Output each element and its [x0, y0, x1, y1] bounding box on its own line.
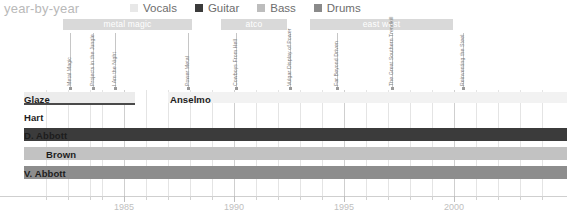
legend-label: Vocals [143, 2, 177, 14]
gridline-minor [322, 90, 323, 196]
album-marker[interactable]: Power Metal [188, 33, 189, 90]
row-label-d-abbott: D. Abbott [24, 131, 67, 141]
album-label: Metal Magic [66, 57, 72, 86]
timeline-bar[interactable] [24, 128, 567, 141]
album-marker[interactable]: I Am the Night [115, 33, 116, 90]
axis-year-label: 1995 [334, 202, 354, 212]
year-axis: 1985199019952000 [0, 196, 567, 220]
gridline-minor [146, 90, 147, 196]
album-marker[interactable]: Projects in the Jungle [93, 33, 94, 90]
gridline-minor [168, 90, 169, 196]
axis-tick-minor [410, 196, 411, 200]
legend-item-guitar[interactable]: Guitar [195, 2, 239, 14]
row-label-brown: Brown [46, 150, 76, 160]
axis-tick-minor [388, 196, 389, 200]
legend-item-bass[interactable]: Bass [257, 2, 296, 14]
chart-header: year-by-year VocalsGuitarBassDrums [0, 0, 567, 18]
album-marker[interactable]: Reinventing the Steel [463, 33, 464, 90]
axis-tick-minor [90, 196, 91, 200]
gridline-minor [300, 90, 301, 196]
gridline-major [124, 90, 125, 196]
row-label-hart: Hart [24, 113, 43, 123]
album-marker[interactable]: The Great Southern Trendkill [392, 33, 393, 90]
legend-swatch-icon [130, 4, 138, 12]
axis-line [0, 196, 567, 197]
axis-tick-minor [168, 196, 169, 200]
legend: VocalsGuitarBassDrums [130, 2, 379, 15]
album-marker[interactable]: Cowboys From Hell [236, 33, 237, 90]
gridline-minor [432, 90, 433, 196]
gridline-major [344, 90, 345, 196]
timeline-bar[interactable] [24, 147, 567, 160]
album-label: Power Metal [184, 56, 190, 86]
axis-tick-minor [256, 196, 257, 200]
axis-tick-minor [68, 196, 69, 200]
legend-label: Guitar [208, 2, 239, 14]
legend-swatch-icon [195, 4, 203, 12]
gridline-minor [46, 90, 47, 196]
era-band: east west [310, 19, 453, 30]
album-label: The Great Southern Trendkill [388, 17, 394, 86]
axis-year-label: 1985 [114, 202, 134, 212]
gridline-minor [498, 90, 499, 196]
era-band: metal magic [63, 19, 192, 30]
gridline-minor [190, 90, 191, 196]
legend-item-drums[interactable]: Drums [314, 2, 361, 14]
axis-tick-minor [432, 196, 433, 200]
gridline-minor [366, 90, 367, 196]
page-title: year-by-year [4, 1, 79, 16]
gridline-major [454, 90, 455, 196]
gridline-minor [520, 90, 521, 196]
gridline-minor [102, 90, 103, 196]
legend-item-vocals[interactable]: Vocals [130, 2, 177, 14]
row-label-glaze: Glaze [24, 95, 50, 105]
album-marker[interactable]: Far Beyond Driven [337, 33, 338, 90]
axis-tick-minor [366, 196, 367, 200]
axis-tick-minor [46, 196, 47, 200]
axis-tick-minor [212, 196, 213, 200]
gridline-minor [278, 90, 279, 196]
album-label: Projects in the Jungle [89, 34, 95, 86]
axis-tick-minor [498, 196, 499, 200]
gridline-minor [90, 90, 91, 196]
album-marker[interactable]: Metal Magic [70, 33, 71, 90]
album-label: Cowboys From Hell [232, 39, 238, 86]
timeline-plot: GlazeAnselmoHartD. AbbottBrownV. Abbott [0, 90, 567, 196]
axis-tick-minor [476, 196, 477, 200]
album-marker[interactable]: Vulgar Display of Power [290, 33, 291, 90]
gridline-minor [476, 90, 477, 196]
gridline-minor [256, 90, 257, 196]
row-label-anselmo: Anselmo [170, 95, 211, 105]
gridline-major [234, 90, 235, 196]
album-marker-column: Metal MagicProjects in the JungleI Am th… [0, 33, 567, 90]
legend-swatch-icon [314, 4, 322, 12]
legend-label: Drums [327, 2, 361, 14]
axis-year-label: 1990 [224, 202, 244, 212]
axis-tick-minor [278, 196, 279, 200]
album-label: Far Beyond Driven [333, 41, 339, 86]
gridline-minor [542, 90, 543, 196]
album-label: Reinventing the Steel [459, 35, 465, 86]
gridline-minor [410, 90, 411, 196]
era-band: atco [221, 19, 287, 30]
timeline-bar[interactable] [168, 92, 567, 103]
axis-tick-minor [322, 196, 323, 200]
axis-tick-minor [542, 196, 543, 200]
gridline-minor [68, 90, 69, 196]
axis-year-label: 2000 [444, 202, 464, 212]
row-label-v-abbott: V. Abbott [24, 169, 66, 179]
axis-tick-minor [102, 196, 103, 200]
axis-tick-minor [146, 196, 147, 200]
gridline-minor [212, 90, 213, 196]
timeline-bar[interactable] [24, 166, 567, 179]
legend-swatch-icon [257, 4, 265, 12]
legend-label: Bass [270, 2, 296, 14]
axis-tick-minor [190, 196, 191, 200]
axis-tick-minor [520, 196, 521, 200]
label-era-band-row: metal magicatcoeast west [0, 19, 567, 30]
album-label: I Am the Night [111, 52, 117, 86]
axis-tick-minor [300, 196, 301, 200]
gridline-minor [388, 90, 389, 196]
album-label: Vulgar Display of Power [286, 29, 292, 86]
